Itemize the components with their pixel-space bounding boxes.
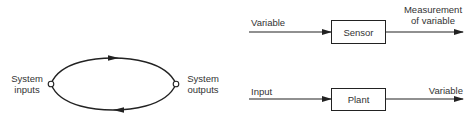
sensor-output-line1: Measurement [402, 4, 464, 15]
sensor-block-label: Sensor [343, 27, 373, 38]
plant-block: Plant [331, 88, 386, 111]
system-inputs-line2: inputs [8, 84, 46, 95]
sensor-output-label: Measurement of variable [402, 4, 464, 26]
system-inputs-label: System inputs [8, 73, 46, 95]
sensor-output-line2: of variable [402, 15, 464, 26]
plant-block-label: Plant [348, 94, 370, 105]
plant-output-label: Variable [429, 85, 463, 96]
output-node-icon [173, 81, 179, 87]
input-node-icon [48, 81, 54, 87]
loop-top-arc [51, 58, 176, 84]
loop-top-arrow-icon [108, 55, 119, 61]
sensor-block: Sensor [331, 20, 386, 44]
loop-diagram [48, 55, 179, 113]
loop-bottom-arc [51, 84, 176, 110]
system-outputs-line2: outputs [183, 84, 223, 95]
sensor-input-label: Variable [251, 17, 285, 28]
loop-bottom-arrow-icon [113, 107, 124, 113]
system-outputs-line1: System [183, 73, 223, 84]
plant-input-label: Input [251, 86, 272, 97]
system-inputs-line1: System [8, 73, 46, 84]
diagram-canvas [0, 0, 464, 127]
system-outputs-label: System outputs [183, 73, 223, 95]
